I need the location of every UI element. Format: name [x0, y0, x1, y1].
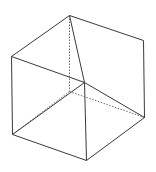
edge-left-bottom-center [13, 83, 85, 135]
edge-top-right-top [70, 16, 144, 41]
edge-left-top-center [12, 57, 85, 83]
edge-center-bottom [85, 83, 87, 161]
edge-top-center [70, 16, 85, 83]
edge-bottom-left-bottom [13, 135, 87, 161]
edge-right-bottom-bottom [87, 118, 145, 161]
edge-right-top-right-bottom [144, 41, 145, 118]
edge-left-top-top [12, 16, 70, 57]
cube-diagram [0, 0, 156, 172]
edge-left-bottom-left-top [12, 57, 13, 135]
